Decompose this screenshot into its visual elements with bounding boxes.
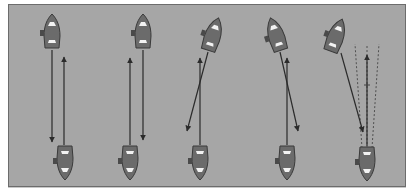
scenario-5	[319, 15, 379, 181]
dashed-bearing-line	[355, 44, 362, 148]
boat-icon-bottom	[118, 146, 138, 180]
boat-icon-top	[259, 15, 289, 54]
boat-icon-bottom	[355, 147, 375, 181]
top-course-arrow	[341, 53, 363, 132]
scenario-4	[259, 15, 298, 180]
boat-icon-top	[40, 14, 60, 48]
scenario-2	[118, 14, 151, 180]
boat-courses-diagram	[0, 0, 411, 196]
top-course-arrow	[280, 52, 298, 131]
boat-icon-bottom	[53, 146, 73, 180]
scenario-3	[187, 14, 226, 180]
boat-icon-top	[319, 15, 349, 54]
boat-icon-bottom	[188, 146, 208, 180]
scenario-1	[40, 14, 73, 180]
dashed-bearing-line	[372, 44, 379, 148]
top-course-arrow	[187, 52, 208, 131]
boat-icon-top	[197, 14, 227, 53]
boat-icon-top	[131, 14, 151, 48]
boat-icon-bottom	[275, 146, 295, 180]
